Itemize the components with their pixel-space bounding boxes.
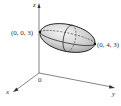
ellipsoid-body xyxy=(37,19,97,57)
ellipsoid-diagram: z x y 0 (0, 0, 3) (0, 4, 3) xyxy=(0,0,121,106)
y-axis-arrow-icon xyxy=(109,85,115,89)
x-axis xyxy=(16,73,39,90)
y-axis-label: y xyxy=(111,90,116,98)
point-0-4-3 xyxy=(94,43,96,45)
x-axis-label: x xyxy=(5,88,10,96)
y-axis xyxy=(39,73,112,87)
point-label-0-4-3: (0, 4, 3) xyxy=(97,41,120,49)
point-0-0-3 xyxy=(39,31,41,33)
x-axis-arrow-icon xyxy=(13,88,19,93)
z-axis-arrow-icon xyxy=(38,3,41,8)
origin-label: 0 xyxy=(38,76,42,84)
ellipsoid xyxy=(37,19,97,57)
point-label-0-0-3: (0, 0, 3) xyxy=(11,29,34,37)
z-axis-label: z xyxy=(32,1,36,9)
